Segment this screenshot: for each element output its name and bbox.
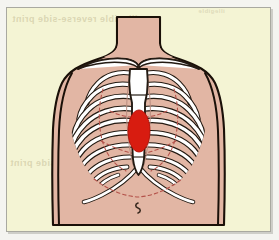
heart-landmark — [128, 110, 150, 152]
neck-shape — [104, 19, 173, 57]
heart-icon — [128, 110, 150, 152]
figure-root: illegible reverse-side print illegible r… — [0, 0, 279, 240]
anatomy-illustration — [6, 7, 271, 232]
